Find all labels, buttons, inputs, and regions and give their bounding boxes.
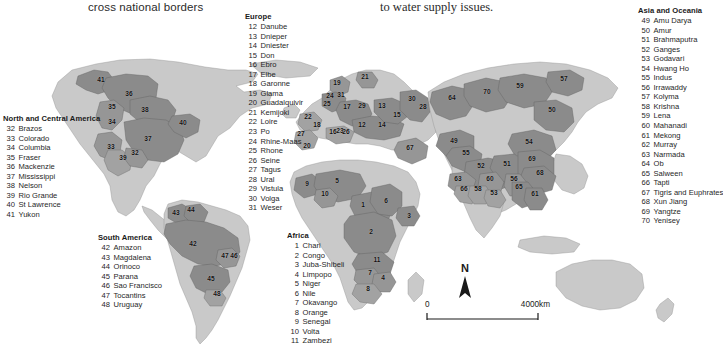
legend-item: 40St Lawrence [3, 200, 100, 210]
legend-item-number: 49 [638, 16, 650, 26]
legend-item-label: Colorado [19, 134, 50, 144]
map-basin-number: 30 [408, 95, 415, 102]
legend-item-label: Yangtze [654, 207, 681, 217]
map-basin-number: 36 [125, 90, 132, 97]
legend-item-label: Garonne [261, 79, 291, 89]
legend-item: 50Amur [638, 26, 723, 36]
legend-item-label: Chari [303, 241, 321, 251]
map-basin-number: 21 [361, 73, 368, 80]
legend-item-label: Danube [261, 22, 288, 32]
legend-item-label: Vistula [261, 184, 284, 194]
legend-item-label: Weser [261, 203, 283, 213]
legend-item-number: 3 [287, 260, 299, 270]
legend-south-america: South America 42Amazon43Magdalena44Orino… [98, 233, 162, 310]
legend-item-label: Kolyma [654, 92, 679, 102]
legend-item-label: Seine [261, 156, 280, 166]
map-basin-number: 24 [326, 92, 333, 99]
legend-item-label: Parana [114, 272, 139, 282]
legend-item-number: 8 [287, 308, 299, 318]
legend-item-number: 30 [245, 194, 257, 204]
map-basin-number: 35 [108, 103, 115, 110]
map-basin-number: 58 [474, 185, 481, 192]
map-basin-number: 53 [490, 189, 497, 196]
legend-item: 51Brahmaputra [638, 35, 723, 45]
map-basin-number: 52 [477, 162, 484, 169]
legend-item-label: Fraser [19, 153, 41, 163]
legend-item: 30Volga [245, 194, 303, 204]
legend-item: 4Limpopo [287, 270, 344, 280]
legend-title: Europe [245, 12, 303, 21]
legend-item-label: Elbe [261, 70, 276, 80]
legend-item: 15Don [245, 51, 303, 61]
legend-item-label: Brazos [19, 124, 43, 134]
map-basin-number: 42 [189, 240, 196, 247]
legend-item-label: Xun Jiang [654, 197, 688, 207]
scale-bar: 0 4000km [425, 300, 550, 322]
legend-items: 12Danube13Dnieper14Dniester15Don16Ebro17… [245, 22, 303, 213]
legend-item: 26Seine [245, 156, 303, 166]
legend-item: 27Tagus [245, 165, 303, 175]
map-basin-number: 8 [366, 285, 370, 292]
legend-item-number: 25 [245, 146, 257, 156]
legend-item-label: Tigris and Euphrates [654, 188, 723, 198]
legend-item-number: 44 [98, 262, 110, 272]
legend-item: 36Mackenzie [3, 162, 100, 172]
legend-item-label: Congo [303, 251, 325, 261]
legend-item-label: Krishna [654, 102, 680, 112]
legend-item-number: 60 [638, 121, 650, 131]
legend-item-label: Mekong [654, 131, 681, 141]
legend-item: 19Glama [245, 89, 303, 99]
north-arrow: N [452, 262, 478, 300]
map-basin-number: 39 [119, 154, 126, 161]
legend-item-number: 61 [638, 131, 650, 141]
legend-item-number: 55 [638, 73, 650, 83]
legend-item-label: Orinoco [114, 262, 141, 272]
legend-item-number: 17 [245, 70, 257, 80]
map-basin-number: 14 [378, 121, 385, 128]
legend-item: 38Nelson [3, 181, 100, 191]
legend-item: 25Rhone [245, 146, 303, 156]
map-basin-number: 65 [515, 183, 522, 190]
legend-item-label: Amu Darya [654, 16, 692, 26]
legend-item-label: Ob [654, 159, 664, 169]
legend-item: 60Mahanadi [638, 121, 723, 131]
legend-item: 42Amazon [98, 243, 162, 253]
legend-item-label: Don [261, 51, 275, 61]
legend-items: 49Amu Darya50Amur51Brahmaputra52Ganges53… [638, 16, 723, 226]
legend-item-number: 64 [638, 159, 650, 169]
map-basin-number: 46 [230, 252, 237, 259]
map-basin-number: 11 [374, 256, 381, 263]
legend-item: 23Po [245, 127, 303, 137]
legend-item-number: 58 [638, 102, 650, 112]
legend-item-label: Mahanadi [654, 121, 687, 131]
legend-title: Asia and Oceania [638, 6, 723, 15]
map-basin-number: 26 [342, 128, 349, 135]
map-basin-number: 66 [460, 185, 467, 192]
legend-item: 46Sao Francisco [98, 281, 162, 291]
map-basin-number: 67 [406, 144, 413, 151]
legend-items: 42Amazon43Magdalena44Orinoco45Parana46Sa… [98, 243, 162, 310]
legend-item-number: 53 [638, 54, 650, 64]
legend-item-label: Ebro [261, 60, 277, 70]
legend-item-number: 50 [638, 26, 650, 36]
legend-item-number: 20 [245, 98, 257, 108]
legend-item: 41Yukon [3, 210, 100, 220]
legend-item: 3Juba-Shibeli [287, 260, 344, 270]
legend-item-number: 63 [638, 150, 650, 160]
map-basin-number: 2 [369, 228, 373, 235]
map-basin-number: 31 [337, 91, 344, 98]
map-basin-number: 55 [462, 149, 469, 156]
map-basin-number: 34 [108, 118, 115, 125]
legend-item: 33Colorado [3, 134, 100, 144]
legend-item: 59Lena [638, 111, 723, 121]
map-basin-number: 64 [448, 94, 455, 101]
legend-item-number: 31 [245, 203, 257, 213]
legend-item-label: Guadalquivir [261, 98, 304, 108]
legend-item: 44Orinoco [98, 262, 162, 272]
legend-item-label: Ural [261, 175, 275, 185]
legend-item: 32Brazos [3, 124, 100, 134]
legend-item-label: Narmada [654, 150, 685, 160]
legend-item-label: Nelson [19, 181, 43, 191]
legend-item-number: 35 [3, 153, 15, 163]
legend-item-number: 2 [287, 251, 299, 261]
